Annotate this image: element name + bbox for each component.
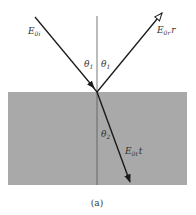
- incident-ray-end: [93, 87, 97, 92]
- label-reflected-field: E0rr: [156, 25, 176, 36]
- label-theta-reflected: θ1: [101, 59, 110, 70]
- reflection-refraction-diagram: E0i E0rr θ1 θ1 θ2 E0tt (a): [0, 0, 196, 215]
- incident-ray: [35, 17, 94, 88]
- label-incident-field: E0i: [27, 26, 40, 37]
- figure-caption: (a): [91, 198, 103, 208]
- medium-region: [8, 92, 187, 185]
- label-theta-incident: θ1: [84, 59, 93, 70]
- reflected-ray: [97, 13, 162, 92]
